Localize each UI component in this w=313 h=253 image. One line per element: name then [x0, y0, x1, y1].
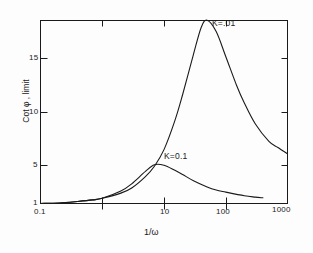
y-ticks-right [282, 59, 288, 166]
curve-k-001 [41, 20, 288, 203]
curve-label-k-01: K=0.1 [164, 152, 187, 161]
curve-label-k-001: K=.01 [212, 19, 235, 28]
y-tick-label-5: 5 [33, 161, 38, 169]
y-axis-title: Cot φ , limit [21, 61, 31, 141]
x-tick-label-10: 10 [160, 208, 169, 216]
plot-frame [41, 21, 288, 204]
x-ticks-top [103, 21, 227, 27]
y-ticks-left [41, 59, 48, 166]
plot-canvas [0, 0, 313, 253]
y-tick-label-10: 10 [29, 108, 38, 116]
chart-figure: Cot φ , limit 15 10 5 1 0.1 10 100 1000 … [0, 0, 313, 253]
y-tick-label-15: 15 [29, 54, 38, 62]
y-tick-label-1: 1 [33, 199, 38, 207]
x-axis-title: 1/ω [144, 228, 159, 237]
x-tick-label-100: 100 [216, 208, 230, 216]
x-tick-label-0.1: 0.1 [34, 208, 46, 216]
x-tick-label-1000: 1000 [272, 206, 291, 214]
